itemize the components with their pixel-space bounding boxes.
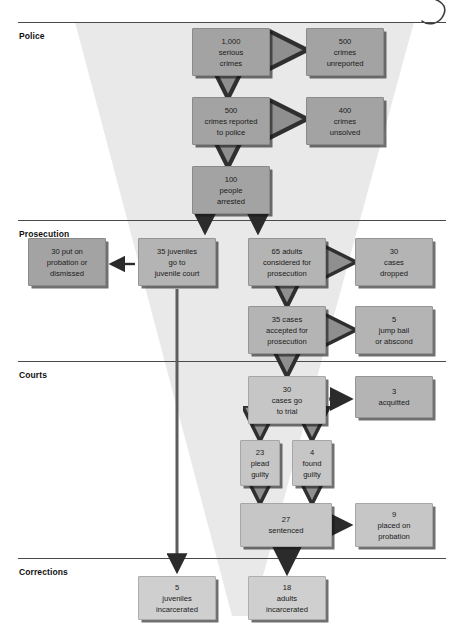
node-line: crimes bbox=[334, 47, 356, 58]
node-line: 27 bbox=[282, 514, 290, 525]
node-line: 5 bbox=[392, 314, 396, 325]
node-line: jump bail bbox=[379, 325, 409, 336]
node-cases-go-to-trial[interactable]: 30 cases go to trial bbox=[248, 376, 326, 424]
node-sentenced[interactable]: 27 sentenced bbox=[240, 503, 332, 547]
node-line: adults bbox=[277, 593, 297, 604]
node-line: incarcerated bbox=[156, 604, 198, 615]
section-rule-corrections bbox=[18, 558, 446, 559]
node-line: 3 bbox=[392, 386, 396, 397]
node-line: crimes reported bbox=[205, 116, 258, 127]
node-line: prosecution bbox=[267, 268, 306, 279]
node-people-arrested[interactable]: 100 people arrested bbox=[192, 166, 270, 214]
node-line: cases go bbox=[272, 395, 302, 406]
node-line: 100 bbox=[225, 174, 238, 185]
node-line: 5 bbox=[175, 582, 179, 593]
node-line: people bbox=[220, 185, 243, 196]
node-line: 4 bbox=[310, 447, 314, 458]
node-line: 23 bbox=[256, 447, 264, 458]
node-line: probation bbox=[378, 531, 410, 542]
node-line: unsolved bbox=[330, 127, 360, 138]
node-line: or abscond bbox=[375, 336, 413, 347]
node-line: accepted for bbox=[266, 325, 308, 336]
node-line: guilty bbox=[303, 469, 321, 480]
node-line: acquitted bbox=[379, 397, 410, 408]
node-line: 35 juveniles bbox=[157, 246, 197, 257]
node-juvenile-court[interactable]: 35 juveniles go to juvenile court bbox=[138, 238, 216, 286]
node-line: unreported bbox=[327, 58, 364, 69]
node-cases-dropped[interactable]: 30 cases dropped bbox=[355, 238, 433, 286]
node-crimes-unsolved[interactable]: 400 crimes unsolved bbox=[306, 97, 384, 145]
handwritten-scribble-mark bbox=[396, 0, 456, 30]
node-line: cases bbox=[384, 257, 404, 268]
node-line: serious bbox=[219, 47, 243, 58]
node-jump-bail-or-abscond[interactable]: 5 jump bail or abscond bbox=[355, 306, 433, 354]
node-adults-considered-for-prosecution[interactable]: 65 adults considered for prosecution bbox=[248, 238, 326, 286]
node-line: arrested bbox=[217, 196, 245, 207]
node-line: 30 bbox=[390, 246, 398, 257]
section-rule-courts bbox=[18, 361, 446, 362]
node-line: found bbox=[302, 458, 321, 469]
node-plead-guilty[interactable]: 23 plead guilty bbox=[240, 440, 280, 486]
node-line: 35 cases bbox=[272, 314, 302, 325]
node-crimes-reported-to-police[interactable]: 500 crimes reported to police bbox=[192, 97, 270, 145]
node-line: 65 adults bbox=[272, 246, 303, 257]
node-line: juvenile court bbox=[155, 268, 200, 279]
node-line: guilty bbox=[251, 469, 269, 480]
node-serious-crimes[interactable]: 1,000 serious crimes bbox=[192, 28, 270, 76]
node-line: 30 bbox=[283, 384, 291, 395]
node-juveniles-incarcerated[interactable]: 5 juveniles incarcerated bbox=[138, 576, 216, 620]
node-line: crimes bbox=[334, 116, 356, 127]
node-placed-on-probation[interactable]: 9 placed on probation bbox=[355, 503, 433, 547]
node-line: 500 bbox=[225, 105, 238, 116]
node-line: 30 put on bbox=[51, 246, 83, 257]
section-rule-police bbox=[18, 22, 446, 23]
section-rule-prosecution bbox=[18, 220, 446, 221]
node-line: placed on bbox=[378, 520, 411, 531]
node-line: to police bbox=[217, 127, 245, 138]
node-crimes-unreported[interactable]: 500 crimes unreported bbox=[306, 28, 384, 76]
node-line: probation or bbox=[47, 257, 88, 268]
node-line: incarcerated bbox=[266, 604, 308, 615]
node-adults-incarcerated[interactable]: 18 adults incarcerated bbox=[248, 576, 326, 620]
node-line: to trial bbox=[277, 406, 298, 417]
section-label-corrections: Corrections bbox=[19, 567, 68, 577]
node-found-guilty[interactable]: 4 found guilty bbox=[292, 440, 332, 486]
node-line: 400 bbox=[339, 105, 352, 116]
node-probation-or-dismissed[interactable]: 30 put on probation or dismissed bbox=[28, 238, 106, 286]
node-line: crimes bbox=[220, 58, 242, 69]
section-label-police: Police bbox=[19, 31, 45, 41]
node-line: sentenced bbox=[268, 525, 303, 536]
node-line: juveniles bbox=[162, 593, 192, 604]
node-line: 1,000 bbox=[221, 36, 240, 47]
node-line: 9 bbox=[392, 509, 396, 520]
node-line: considered for bbox=[263, 257, 311, 268]
node-line: 500 bbox=[339, 36, 352, 47]
node-cases-accepted-for-prosecution[interactable]: 35 cases accepted for prosecution bbox=[248, 306, 326, 354]
node-acquitted[interactable]: 3 acquitted bbox=[355, 376, 433, 418]
section-label-courts: Courts bbox=[19, 370, 47, 380]
node-line: 18 bbox=[283, 582, 291, 593]
node-line: go to bbox=[169, 257, 186, 268]
node-line: dropped bbox=[380, 268, 408, 279]
criminal-justice-flowchart: Police Prosecution Courts Corrections bbox=[0, 0, 464, 635]
node-line: prosecution bbox=[267, 336, 306, 347]
node-line: plead bbox=[251, 458, 270, 469]
node-line: dismissed bbox=[50, 268, 84, 279]
